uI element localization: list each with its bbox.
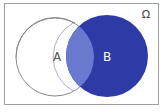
set-a-label: A bbox=[53, 50, 62, 64]
set-b-label: B bbox=[103, 50, 111, 64]
universe-label: Ω bbox=[142, 8, 150, 21]
venn-diagram: A B Ω bbox=[0, 0, 163, 112]
